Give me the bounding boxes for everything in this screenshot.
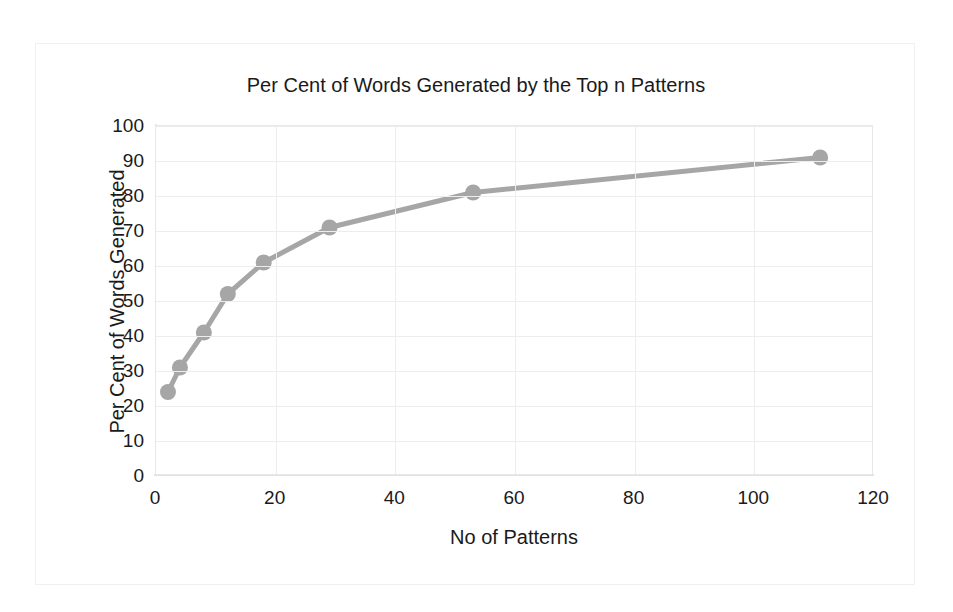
data-point-marker bbox=[172, 360, 188, 376]
y-axis-tick-label: 20 bbox=[84, 396, 144, 415]
data-point-marker bbox=[160, 384, 176, 400]
gridline-vertical bbox=[395, 126, 396, 474]
x-axis-tick-label: 0 bbox=[120, 488, 190, 507]
y-axis-tick-label: 10 bbox=[84, 431, 144, 450]
chart-title: Per Cent of Words Generated by the Top n… bbox=[36, 74, 916, 97]
y-axis-tick-label: 40 bbox=[84, 326, 144, 345]
y-axis-tick-label: 90 bbox=[84, 151, 144, 170]
gridline-horizontal bbox=[156, 371, 872, 372]
x-axis-tick-label: 60 bbox=[479, 488, 549, 507]
gridline-vertical bbox=[276, 126, 277, 474]
y-axis-tick-labels: 0102030405060708090100 bbox=[82, 125, 144, 475]
figure-frame: Per Cent of Words Generated by the Top n… bbox=[35, 43, 915, 585]
x-axis-tick-labels: 020406080100120 bbox=[155, 488, 873, 514]
gridline-horizontal bbox=[156, 231, 872, 232]
x-axis-tick-label: 40 bbox=[359, 488, 429, 507]
y-axis-tick-label: 100 bbox=[84, 116, 144, 135]
y-axis-tick-label: 80 bbox=[84, 186, 144, 205]
y-axis-tick-label: 0 bbox=[84, 466, 144, 485]
gridline-vertical bbox=[635, 126, 636, 474]
data-point-marker bbox=[196, 325, 212, 341]
gridline-horizontal bbox=[156, 126, 872, 127]
y-axis-tick-label: 50 bbox=[84, 291, 144, 310]
x-axis-title: No of Patterns bbox=[155, 526, 873, 549]
gridline-horizontal bbox=[156, 441, 872, 442]
data-point-marker bbox=[220, 286, 236, 302]
gridline-horizontal bbox=[156, 336, 872, 337]
series-line bbox=[168, 158, 820, 393]
gridline-vertical bbox=[515, 126, 516, 474]
gridline-vertical bbox=[754, 126, 755, 474]
y-axis-tick-label: 30 bbox=[84, 361, 144, 380]
gridline-horizontal bbox=[156, 301, 872, 302]
x-axis-tick-label: 100 bbox=[718, 488, 788, 507]
gridline-horizontal bbox=[156, 266, 872, 267]
y-axis-tick-label: 60 bbox=[84, 256, 144, 275]
gridline-horizontal bbox=[156, 196, 872, 197]
data-point-marker bbox=[465, 185, 481, 201]
y-axis-tick-label: 70 bbox=[84, 221, 144, 240]
data-point-marker bbox=[256, 255, 272, 271]
gridline-horizontal bbox=[156, 161, 872, 162]
x-axis-tick-label: 120 bbox=[838, 488, 908, 507]
gridline-horizontal bbox=[156, 406, 872, 407]
plot-area bbox=[155, 125, 873, 475]
x-axis-tick-label: 20 bbox=[240, 488, 310, 507]
data-point-marker bbox=[322, 220, 338, 236]
x-axis-tick-label: 80 bbox=[599, 488, 669, 507]
data-point-marker bbox=[812, 150, 828, 166]
